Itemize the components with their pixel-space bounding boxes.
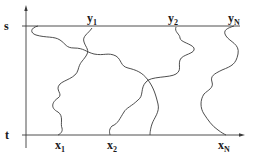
label-s: s <box>4 20 9 32</box>
label-y2: y2 <box>168 12 178 27</box>
label-xN: xN <box>218 139 230 154</box>
path-y1-to-x1 <box>53 28 92 135</box>
label-yN-sub: N <box>234 18 240 27</box>
label-x2: x2 <box>107 139 117 154</box>
path-s-left-to-right <box>32 26 159 135</box>
label-x1-sub: 1 <box>61 145 65 154</box>
label-x1: x1 <box>55 139 65 154</box>
paths-diagram <box>0 0 255 156</box>
label-yN: yN <box>228 12 240 27</box>
vertical-axis-arrow-icon <box>24 5 27 11</box>
label-x2-sub: 2 <box>113 145 117 154</box>
label-t: t <box>5 129 9 141</box>
label-xN-sub: N <box>224 145 230 154</box>
path-y2-to-x2 <box>110 27 195 135</box>
t-line-arrow-icon <box>239 133 245 136</box>
label-y1-sub: 1 <box>93 18 97 27</box>
label-y2-sub: 2 <box>174 18 178 27</box>
label-y1: y1 <box>87 12 97 27</box>
path-yN-to-xN <box>201 26 238 135</box>
